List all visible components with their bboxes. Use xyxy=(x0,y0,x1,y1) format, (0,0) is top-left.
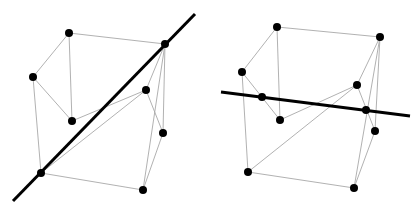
vertex-far-top-right xyxy=(161,40,169,48)
panel-right-cube xyxy=(221,23,410,192)
cube-edge xyxy=(357,37,380,85)
vertex-back-top-left xyxy=(29,73,37,81)
horizontal-secant-line xyxy=(221,92,410,116)
cube-edge xyxy=(69,33,72,121)
vertex-far-top-right xyxy=(376,33,384,41)
cube-edge xyxy=(33,33,69,77)
cube-edge xyxy=(69,33,165,44)
vertex-mid-right xyxy=(371,127,379,135)
cube-edge xyxy=(33,77,41,173)
cube-edge xyxy=(242,72,248,172)
vertex-bottom-front xyxy=(350,184,358,192)
cube-diagram-canvas xyxy=(0,0,418,224)
cube-edge xyxy=(143,133,163,190)
panel-left-cube xyxy=(13,14,195,201)
cube-edge xyxy=(277,27,380,37)
cube-edge xyxy=(354,131,375,188)
cube-edge xyxy=(41,90,146,173)
vertex-front-top-left xyxy=(276,116,284,124)
vertex-bottom-left xyxy=(244,168,252,176)
vertex-back-top-left xyxy=(238,68,246,76)
vertex-front-top-left xyxy=(68,117,76,125)
cube-edge xyxy=(248,172,354,188)
vertex-front-top-right xyxy=(142,86,150,94)
vertex-edge-right-mid xyxy=(362,106,370,114)
vertex-bottom-left xyxy=(37,169,45,177)
cube-edge xyxy=(280,85,357,120)
vertex-back-top-right xyxy=(65,29,73,37)
figure-root xyxy=(0,0,418,224)
vertex-edge-left-mid xyxy=(258,93,266,101)
cube-edge xyxy=(242,27,277,72)
cube-edge xyxy=(146,44,165,90)
cube-edge xyxy=(41,173,143,190)
cube-edge xyxy=(72,90,146,121)
vertex-front-top-right xyxy=(353,81,361,89)
cube-edges xyxy=(242,27,380,188)
vertex-bottom-front xyxy=(139,186,147,194)
cube-edge xyxy=(33,77,72,121)
cube-edge xyxy=(277,27,280,120)
vertex-mid-right xyxy=(159,129,167,137)
vertex-back-top-right xyxy=(273,23,281,31)
